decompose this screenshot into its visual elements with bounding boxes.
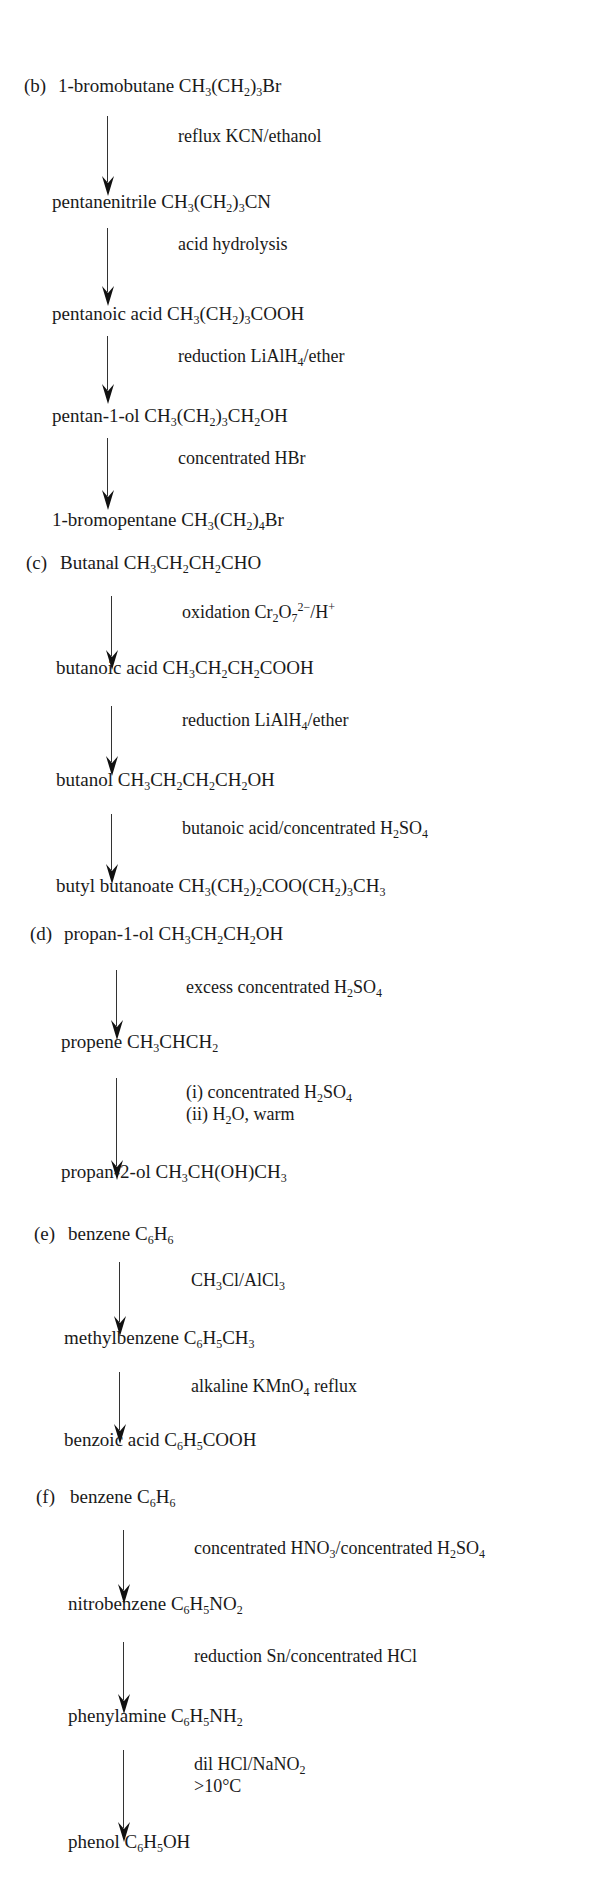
- down-arrow-icon: [117, 1750, 131, 1842]
- start-compound: (c)Butanal CH3CH2CH2CHO: [26, 552, 261, 574]
- compound-name: butyl butanoate: [56, 875, 178, 896]
- product-compound: butyl butanoate CH3(CH2)2COO(CH2)3CH3: [56, 875, 385, 897]
- reaction-conditions: butanoic acid/concentrated H2SO4: [182, 817, 428, 839]
- compound-formula: CH3CH2CH2CH2OH: [118, 769, 275, 790]
- compound-name: phenol: [68, 1831, 124, 1852]
- product-compound: phenol C6H5OH: [68, 1831, 190, 1853]
- reaction-conditions: acid hydrolysis: [178, 233, 288, 255]
- compound-formula: CH3CH2CH2OH: [158, 923, 283, 944]
- compound-formula: C6H5OH: [124, 1831, 190, 1852]
- start-compound: (e)benzene C6H6: [34, 1223, 173, 1245]
- compound-formula: CH3(CH2)4Br: [181, 509, 283, 530]
- compound-formula: C6H6: [137, 1486, 175, 1507]
- product-compound: 1-bromopentane CH3(CH2)4Br: [52, 509, 284, 531]
- compound-formula: CH3CH2CH2CHO: [124, 552, 261, 573]
- compound-formula: CH3CH(OH)CH3: [155, 1161, 286, 1182]
- product-compound: pentan-1-ol CH3(CH2)3CH2OH: [52, 405, 288, 427]
- reaction-conditions: reduction LiAlH4/ether: [178, 345, 344, 367]
- compound-formula: CH3CH2CH2COOH: [163, 657, 314, 678]
- compound-name: 1-bromobutane: [58, 75, 179, 96]
- down-arrow-icon: [101, 438, 115, 510]
- section-label: (c): [26, 552, 60, 574]
- compound-name: pentan-1-ol: [52, 405, 144, 426]
- product-compound: methylbenzene C6H5CH3: [64, 1327, 255, 1349]
- down-arrow-icon: [117, 1642, 131, 1714]
- compound-formula: CH3(CH2)3CN: [161, 191, 271, 212]
- compound-formula: CH3(CH2)2COO(CH2)3CH3: [178, 875, 385, 896]
- reaction-conditions: reduction Sn/concentrated HCl: [194, 1645, 417, 1667]
- reaction-conditions: alkaline KMnO4 reflux: [191, 1375, 357, 1397]
- down-arrow-icon: [105, 706, 119, 776]
- down-arrow-icon: [101, 228, 115, 306]
- reaction-conditions: oxidation Cr2O72−/H+: [182, 601, 335, 623]
- product-compound: pentanoic acid CH3(CH2)3COOH: [52, 303, 304, 325]
- compound-formula: C6H5NH2: [171, 1705, 243, 1726]
- product-compound: butanol CH3CH2CH2CH2OH: [56, 769, 275, 791]
- compound-name: benzene: [68, 1223, 135, 1244]
- reaction-conditions: excess concentrated H2SO4: [186, 976, 382, 998]
- product-compound: pentanenitrile CH3(CH2)3CN: [52, 191, 271, 213]
- compound-name: pentanoic acid: [52, 303, 167, 324]
- compound-name: methylbenzene: [64, 1327, 184, 1348]
- reaction-conditions: reduction LiAlH4/ether: [182, 709, 348, 731]
- compound-name: phenylamine: [68, 1705, 171, 1726]
- down-arrow-icon: [105, 814, 119, 884]
- reaction-conditions: reflux KCN/ethanol: [178, 125, 321, 147]
- down-arrow-icon: [101, 116, 115, 196]
- compound-name: Butanal: [60, 552, 124, 573]
- product-compound: phenylamine C6H5NH2: [68, 1705, 243, 1727]
- compound-formula: C6H6: [135, 1223, 173, 1244]
- compound-name: nitrobenzene: [68, 1593, 171, 1614]
- compound-name: propene: [61, 1031, 127, 1052]
- compound-formula: C6H5NO2: [171, 1593, 243, 1614]
- section-label: (e): [34, 1223, 68, 1245]
- compound-name: propan-1-ol: [64, 923, 158, 944]
- start-compound: (b)1-bromobutane CH3(CH2)3Br: [24, 75, 281, 97]
- compound-formula: CH3(CH2)3Br: [179, 75, 281, 96]
- compound-name: butanoic acid: [56, 657, 163, 678]
- section-label: (f): [36, 1486, 70, 1508]
- compound-name: propan-2-ol: [61, 1161, 155, 1182]
- down-arrow-icon: [110, 970, 124, 1040]
- compound-name: benzoic acid: [64, 1429, 164, 1450]
- start-compound: (f)benzene C6H6: [36, 1486, 175, 1508]
- section-label: (d): [30, 923, 64, 945]
- reaction-conditions: concentrated HNO3/concentrated H2SO4: [194, 1537, 485, 1559]
- product-compound: propan-2-ol CH3CH(OH)CH3: [61, 1161, 287, 1183]
- compound-name: pentanenitrile: [52, 191, 161, 212]
- product-compound: nitrobenzene C6H5NO2: [68, 1593, 243, 1615]
- section-label: (b): [24, 75, 58, 97]
- compound-formula: CH3(CH2)3CH2OH: [144, 405, 287, 426]
- product-compound: benzoic acid C6H5COOH: [64, 1429, 257, 1451]
- compound-formula: CH3CHCH2: [127, 1031, 218, 1052]
- down-arrow-icon: [113, 1262, 127, 1336]
- reaction-conditions: CH3Cl/AlCl3: [191, 1269, 285, 1291]
- compound-name: 1-bromopentane: [52, 509, 181, 530]
- reaction-conditions: concentrated HBr: [178, 447, 305, 469]
- product-compound: propene CH3CHCH2: [61, 1031, 218, 1053]
- reaction-conditions: (i) concentrated H2SO4(ii) H2O, warm: [186, 1081, 352, 1125]
- product-compound: butanoic acid CH3CH2CH2COOH: [56, 657, 314, 679]
- compound-formula: CH3(CH2)3COOH: [167, 303, 304, 324]
- compound-name: butanol: [56, 769, 118, 790]
- compound-name: benzene: [70, 1486, 137, 1507]
- compound-formula: C6H5COOH: [164, 1429, 256, 1450]
- start-compound: (d)propan-1-ol CH3CH2CH2OH: [30, 923, 283, 945]
- down-arrow-icon: [101, 336, 115, 404]
- reaction-conditions: dil HCl/NaNO2>10°C: [194, 1753, 306, 1797]
- compound-formula: C6H5CH3: [184, 1327, 255, 1348]
